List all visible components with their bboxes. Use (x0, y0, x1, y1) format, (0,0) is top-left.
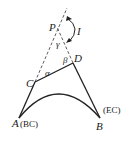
curve-diagram: P I γ β D α C A (BC) B (EC) (0, 0, 133, 146)
label-alpha: α (45, 68, 50, 78)
label-d: D (73, 52, 82, 64)
circular-curve (19, 94, 100, 118)
label-p: P (48, 21, 56, 33)
label-a: A (11, 117, 19, 129)
arrow-head-top-icon (66, 16, 72, 21)
tangent-extension-ac (35, 8, 67, 82)
line-cd (35, 63, 73, 82)
line-db (73, 63, 100, 118)
label-c: C (26, 77, 34, 89)
label-gamma: γ (56, 39, 60, 49)
intersection-angle-arc (67, 18, 75, 42)
label-ec: (EC) (103, 105, 121, 115)
label-i: I (76, 25, 82, 37)
label-b: B (96, 120, 103, 132)
label-beta: β (62, 55, 68, 65)
label-bc: (BC) (20, 119, 38, 129)
